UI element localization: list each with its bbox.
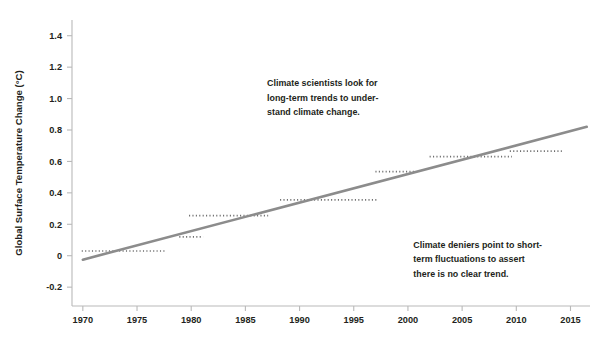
x-tick-label: 2005 — [452, 315, 472, 325]
chart-svg: -0.200.20.40.60.81.01.21.4 1970197519801… — [0, 0, 600, 347]
x-tick-label: 1970 — [73, 315, 93, 325]
annotation-line: stand climate change. — [267, 107, 360, 117]
y-tick-label: 0.4 — [49, 188, 63, 198]
x-tick-label: 1985 — [235, 315, 255, 325]
x-tick-label: 2015 — [560, 315, 580, 325]
y-tick-label: 1.2 — [49, 62, 62, 72]
annotation-group: Climate scientists look forlong-term tre… — [267, 78, 542, 279]
annotation-scientists-note: Climate scientists look forlong-term tre… — [267, 78, 378, 117]
annotation-line: there is no clear trend. — [413, 269, 508, 279]
annotation-deniers-note: Climate deniers point to short-term fluc… — [413, 240, 542, 279]
y-tick-label: 1.0 — [49, 94, 62, 104]
y-tick-group: -0.200.20.40.60.81.01.21.4 — [46, 31, 72, 292]
y-tick-label: 0 — [57, 251, 62, 261]
x-tick-group: 1970197519801985199019952000200520102015 — [73, 306, 581, 325]
y-tick-label: -0.2 — [46, 282, 62, 292]
x-tick-label: 1975 — [127, 315, 147, 325]
x-tick-label: 2010 — [506, 315, 526, 325]
flat-fluctuation-segments — [82, 151, 562, 251]
x-tick-label: 2000 — [398, 315, 418, 325]
x-tick-label: 1995 — [344, 315, 364, 325]
x-tick-label: 1990 — [289, 315, 309, 325]
y-tick-label: 0.6 — [49, 157, 62, 167]
annotation-line: Climate deniers point to short- — [413, 240, 542, 250]
y-tick-label: 0.2 — [49, 220, 62, 230]
annotation-line: long-term trends to under- — [267, 93, 378, 103]
y-tick-label: 0.8 — [49, 125, 62, 135]
annotation-line: term fluctuations to assert — [413, 254, 524, 264]
climate-trend-chart: -0.200.20.40.60.81.01.21.4 1970197519801… — [0, 0, 600, 347]
y-axis: -0.200.20.40.60.81.01.21.4 — [46, 20, 72, 306]
annotation-line: Climate scientists look for — [267, 78, 378, 88]
x-axis: 1970197519801985199019952000200520102015 — [72, 306, 590, 325]
y-tick-label: 1.4 — [49, 31, 63, 41]
y-axis-title: Global Surface Temperature Change (°C) — [13, 70, 24, 255]
x-tick-label: 1980 — [181, 315, 201, 325]
